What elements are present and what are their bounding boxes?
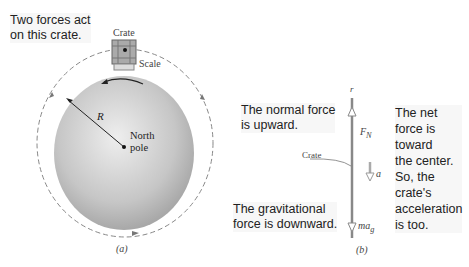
crate-label: Crate [113,27,135,38]
acceleration-label: a [376,168,381,179]
note-line: is too. [395,217,462,233]
note-line: force is [395,121,462,137]
mg-symbol: ma [358,220,370,231]
normal-force-note: The normal force is upward. [241,103,335,133]
note-line: The normal force [241,103,335,118]
crate-point-label: Crate [302,150,322,160]
panel-b-label: (b) [356,244,368,255]
crate [112,40,136,64]
gravitational-force-note: The gravitational force is downward. [233,202,337,232]
scale-label: Scale [139,58,161,69]
note-line: The net [395,105,462,121]
gravitational-force-label: mag [358,220,374,234]
net-force-note: The net force is toward the center. So, … [395,105,462,233]
note-line: crate's [395,185,462,201]
label-line: North [130,130,155,142]
note-line: toward [395,137,462,153]
scale [114,64,134,70]
note-line: So, the [395,169,462,185]
label-line: pole [130,142,155,154]
note-line: the center. [395,153,462,169]
north-pole-label: North pole [130,130,155,154]
note-line: force is downward. [233,217,337,232]
note-line: on this crate. [10,28,91,43]
panel-a-label: (a) [116,243,128,254]
note-line: The gravitational [233,202,337,217]
radius-label: R [97,110,104,122]
normal-force-label: FN [360,126,372,140]
note-line: Two forces act [10,13,91,28]
note-line: is upward. [241,118,335,133]
note-line: acceleration [395,201,462,217]
r-axis-label: r [350,84,354,94]
mg-subscript: g [370,225,374,234]
earth [54,76,194,230]
two-forces-note: Two forces act on this crate. [10,13,91,43]
fn-subscript: N [366,131,372,140]
